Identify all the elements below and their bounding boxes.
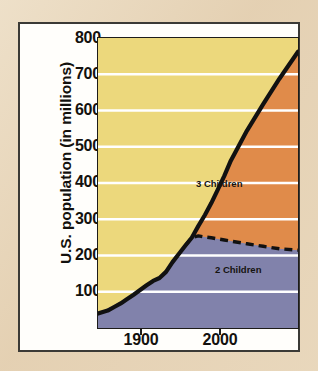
x-tick-label-1900: 1900 xyxy=(111,331,171,349)
annotation-3-children: 3 Children xyxy=(196,178,242,189)
y-tick-label-800: 800 xyxy=(49,29,101,47)
figure-root: U.S. population (in millions) 800 700 60… xyxy=(0,0,318,371)
y-tick-label-400: 400 xyxy=(49,173,101,191)
y-tick-label-100: 100 xyxy=(49,282,101,300)
y-tick-label-600: 600 xyxy=(49,101,101,119)
y-tick-label-500: 500 xyxy=(49,137,101,155)
y-tick-label-200: 200 xyxy=(49,246,101,264)
x-tick-label-2000: 2000 xyxy=(190,331,250,349)
plot-area: 3 Children 2 Children xyxy=(97,37,299,329)
annotation-2-children: 2 Children xyxy=(215,264,261,275)
y-tick-label-700: 700 xyxy=(49,65,101,83)
chart-card: U.S. population (in millions) 800 700 60… xyxy=(18,22,300,352)
y-tick-label-300: 300 xyxy=(49,210,101,228)
